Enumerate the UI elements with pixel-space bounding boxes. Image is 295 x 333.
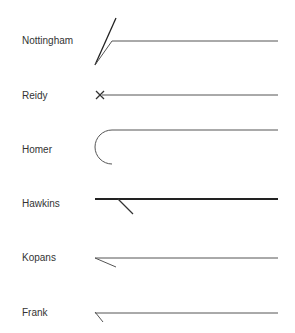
- glyph-kopans: [95, 258, 278, 267]
- line-diagram: [0, 0, 295, 333]
- glyph-homer: [95, 130, 278, 164]
- glyph-hawkins: [95, 199, 278, 214]
- glyph-reidy: [96, 91, 278, 99]
- glyph-frank: [95, 312, 278, 322]
- glyph-nottingham: [95, 18, 278, 65]
